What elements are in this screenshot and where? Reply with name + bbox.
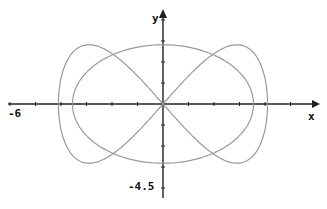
y-min-label: -4.5 — [128, 181, 155, 192]
x-min-label: -6 — [8, 108, 21, 119]
x-axis-label: x — [308, 111, 315, 122]
y-axis-label: y — [152, 13, 159, 24]
plot-canvas — [0, 0, 327, 209]
